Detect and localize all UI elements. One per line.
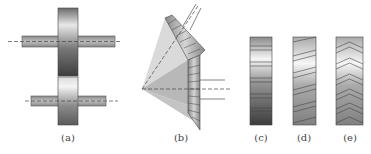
- panel-c-label: (c): [246, 132, 276, 143]
- upper-spur-gear: [58, 8, 78, 76]
- panel-d-label: (d): [289, 132, 319, 143]
- panel-b-label: (b): [166, 132, 196, 143]
- panel-c-spur-teeth: [250, 37, 272, 125]
- panel-a-label: (a): [53, 132, 83, 143]
- panel-d-helical-teeth: [293, 37, 316, 125]
- panel-e-herringbone-teeth: [336, 37, 363, 125]
- gear-types-diagram: [0, 0, 371, 154]
- panel-e-label: (e): [335, 132, 365, 143]
- panel-b-bevel-gears: [142, 4, 230, 130]
- panel-a-spur-gears: [8, 8, 122, 125]
